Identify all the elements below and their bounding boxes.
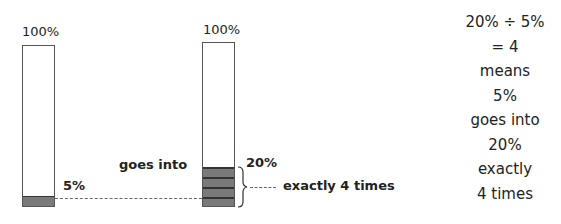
right-bar [202,42,235,207]
goes-into-label: goes into [119,157,187,172]
explanation-line: 20% ÷ 5% [445,10,561,35]
explanation-line: 5% [445,84,561,109]
explanation-line: 4 times [445,182,561,207]
explanation-line: 20% [445,133,561,158]
connector-dashed-line [55,198,202,199]
curly-brace-icon [236,166,250,208]
left-bar-part-label: 5% [63,178,85,193]
right-bar-segment-4 [203,197,234,206]
explanation-line: exactly [445,157,561,182]
right-bar-segment-2 [203,177,234,187]
explanation-line: goes into [445,108,561,133]
right-bar-segment-3 [203,187,234,197]
exactly-4-times-label: exactly 4 times [283,178,395,193]
right-bar-top-label: 100% [203,22,240,37]
explanation-line: = 4 [445,35,561,60]
brace-dashed-line [250,187,276,188]
left-bar-5pct-segment [23,196,54,206]
explanation-line: means [445,59,561,84]
left-bar-top-label: 100% [22,24,59,39]
left-bar [22,45,55,207]
right-bar-segment-1 [203,167,234,177]
explanation-text: 20% ÷ 5% = 4 means 5% goes into 20% exac… [445,10,561,206]
right-bar-part-label: 20% [246,155,277,170]
